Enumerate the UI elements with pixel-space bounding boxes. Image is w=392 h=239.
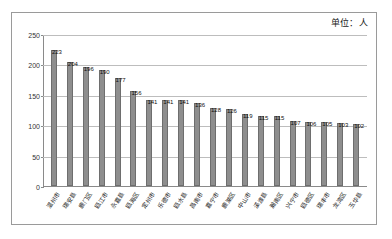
- bar-value-label: 119: [243, 113, 253, 119]
- bar-slot: 102: [348, 35, 364, 186]
- bar-value-label: 115: [275, 115, 285, 121]
- x-label-slot: 瓯海区: [126, 189, 142, 229]
- x-label-slot: 鹿湖区: [221, 189, 237, 229]
- x-tick-label: 温州市: [44, 190, 61, 210]
- bar-slot: 115: [253, 35, 269, 186]
- bar[interactable]: [242, 114, 248, 186]
- bar-slot: 190: [94, 35, 110, 186]
- x-tick-label: 瓯水县: [172, 190, 189, 210]
- x-tick-label: 瑞丰市: [315, 190, 332, 210]
- bar-slot: 136: [189, 35, 205, 186]
- x-axis-tick-labels: 温州市瑞安县鹿门区瓯江市永嘉县瓯海区定州市乐德市瓯水县昌南市嘉宁市鹿湖区中山市溪…: [43, 189, 367, 229]
- bar-value-label: 204: [68, 61, 78, 67]
- y-tick-label: 150: [28, 92, 40, 99]
- bar-value-label: 196: [84, 66, 94, 72]
- bar-slot: 141: [141, 35, 157, 186]
- bar-value-label: 107: [291, 120, 301, 126]
- x-label-slot: 兴宁市: [285, 189, 301, 229]
- bar-slot: 105: [316, 35, 332, 186]
- x-label-slot: 温州市: [46, 189, 62, 229]
- y-tick-label: 250: [28, 32, 40, 39]
- bar[interactable]: [274, 116, 280, 186]
- bar-value-label: 105: [322, 121, 332, 127]
- x-tick-label: 瓯江市: [92, 190, 109, 210]
- x-label-slot: 瀚南区: [269, 189, 285, 229]
- x-label-slot: 玉华县: [348, 189, 364, 229]
- x-label-slot: 溪渡县: [253, 189, 269, 229]
- bar[interactable]: [178, 100, 184, 186]
- bar-slot: 141: [157, 35, 173, 186]
- bar-value-label: 141: [163, 99, 173, 105]
- x-label-slot: 龙湾区: [332, 189, 348, 229]
- y-tick-label: 0: [36, 184, 40, 191]
- unit-note-label: 单位：人: [331, 16, 368, 29]
- x-label-slot: 鹿门区: [78, 189, 94, 229]
- bar[interactable]: [115, 78, 121, 186]
- bar-value-label: 223: [52, 49, 62, 55]
- bar[interactable]: [353, 124, 359, 186]
- x-tick-label: 鹿湖区: [219, 190, 236, 210]
- bar-slot: 141: [173, 35, 189, 186]
- bar-slot: 115: [269, 35, 285, 186]
- bar[interactable]: [146, 100, 152, 186]
- chart-container: 单位：人 050100150200250 2232041961901771561…: [11, 12, 377, 225]
- x-tick-label: 兴宁市: [283, 190, 300, 210]
- x-label-slot: 瓯德区: [301, 189, 317, 229]
- bar[interactable]: [194, 103, 200, 186]
- y-tick-label: 50: [32, 153, 40, 160]
- bar[interactable]: [210, 108, 216, 186]
- y-tick-label: 100: [28, 123, 40, 130]
- bar-value-label: 126: [227, 108, 237, 114]
- bar[interactable]: [162, 100, 168, 186]
- x-tick-label: 瓯德区: [299, 190, 316, 210]
- bar[interactable]: [67, 62, 73, 186]
- bar[interactable]: [305, 122, 311, 186]
- x-tick-label: 乐德市: [156, 190, 173, 210]
- bar-value-label: 128: [211, 107, 221, 113]
- x-tick-label: 瑞安县: [60, 190, 77, 210]
- bar-series: 2232041961901771561411411411361281261191…: [43, 35, 367, 186]
- x-label-slot: 嘉宁市: [205, 189, 221, 229]
- x-label-slot: 瑞安县: [62, 189, 78, 229]
- x-tick-label: 昌南市: [188, 190, 205, 210]
- bar-value-label: 136: [195, 102, 205, 108]
- x-tick-label: 永嘉县: [108, 190, 125, 210]
- x-label-slot: 乐德市: [157, 189, 173, 229]
- bar[interactable]: [337, 123, 343, 186]
- bar-slot: 107: [285, 35, 301, 186]
- bar-slot: 106: [301, 35, 317, 186]
- x-tick-label: 定州市: [140, 190, 157, 210]
- bar[interactable]: [290, 121, 296, 186]
- bar-slot: 204: [62, 35, 78, 186]
- bar-value-label: 141: [179, 99, 189, 105]
- x-tick-label: 龙湾区: [331, 190, 348, 210]
- y-tick-mark: [41, 187, 44, 188]
- bar[interactable]: [130, 91, 136, 186]
- bar-value-label: 156: [131, 90, 141, 96]
- bar-value-label: 177: [116, 77, 126, 83]
- bar-slot: 223: [46, 35, 62, 186]
- x-label-slot: 中山市: [237, 189, 253, 229]
- x-label-slot: 昌南市: [189, 189, 205, 229]
- bar[interactable]: [226, 109, 232, 186]
- bar-value-label: 141: [147, 99, 157, 105]
- bar[interactable]: [51, 50, 57, 186]
- x-tick-label: 嘉宁市: [203, 190, 220, 210]
- y-axis-tick-labels: 050100150200250: [20, 35, 40, 187]
- bar[interactable]: [99, 70, 105, 186]
- bar-slot: 156: [126, 35, 142, 186]
- x-axis-line: [43, 186, 367, 187]
- bar-value-label: 103: [338, 122, 348, 128]
- bar-slot: 119: [237, 35, 253, 186]
- plot-area: 2232041961901771561411411411361281261191…: [43, 35, 367, 187]
- bar[interactable]: [258, 116, 264, 186]
- bar-slot: 196: [78, 35, 94, 186]
- bar-slot: 103: [332, 35, 348, 186]
- bar[interactable]: [83, 67, 89, 186]
- x-tick-label: 鹿门区: [76, 190, 93, 210]
- x-tick-label: 瓯海区: [124, 190, 141, 210]
- bar[interactable]: [321, 122, 327, 186]
- bar-value-label: 102: [354, 123, 364, 129]
- bar-value-label: 190: [100, 69, 110, 75]
- x-label-slot: 定州市: [141, 189, 157, 229]
